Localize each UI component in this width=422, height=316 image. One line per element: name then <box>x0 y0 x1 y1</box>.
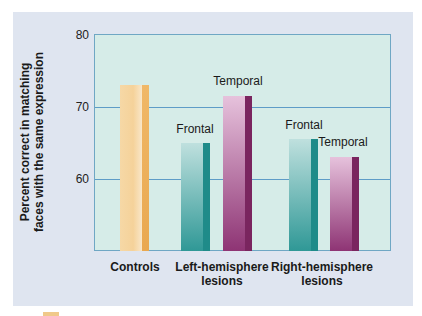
category-left-line2: lesions <box>175 274 268 288</box>
y-tick-70: 70 <box>59 100 89 114</box>
bar-label-left-temporal: Temporal <box>213 74 262 88</box>
category-right-hemisphere: Right-hemisphere lesions <box>271 260 373 288</box>
bar-right-temporal <box>330 157 352 251</box>
bar-label-right-temporal: Temporal <box>318 135 367 149</box>
bar-left-temporal <box>223 96 245 251</box>
category-left-line1: Left-hemisphere <box>175 260 268 274</box>
bar-label-right-frontal: Frontal <box>285 118 322 132</box>
category-controls-text: Controls <box>110 260 159 274</box>
category-left-hemisphere: Left-hemisphere lesions <box>175 260 268 288</box>
category-right-line2: lesions <box>271 274 373 288</box>
y-tick-80: 80 <box>59 28 89 42</box>
y-tick-60: 60 <box>59 172 89 186</box>
bar-right-frontal <box>289 139 311 251</box>
bar-label-left-frontal: Frontal <box>176 122 213 136</box>
color-swatch <box>43 312 59 316</box>
y-axis-label: Percent correct in matching faces with t… <box>18 32 46 252</box>
category-controls: Controls <box>110 260 159 274</box>
category-right-line1: Right-hemisphere <box>271 260 373 274</box>
y-axis-label-line1: Percent correct in matching <box>18 32 32 252</box>
bar-controls <box>120 85 142 251</box>
bar-left-frontal <box>181 143 203 251</box>
y-axis-label-line2: faces with the same expression <box>32 32 46 252</box>
